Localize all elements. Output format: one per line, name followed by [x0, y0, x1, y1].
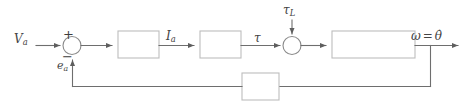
- block-mechanical-dynamics: [332, 31, 415, 58]
- label-output-equals: =: [423, 29, 433, 43]
- label-load-torque: τL: [283, 4, 295, 18]
- label-back-emf-subscript: a: [64, 64, 69, 73]
- block-diagram-canvas: Va + − ea Ia τ τL ω=θ̇: [0, 0, 468, 105]
- summing-junction-plus-sign: +: [63, 28, 74, 41]
- block-back-emf-constant: [242, 73, 279, 100]
- block-electrical-dynamics: [118, 31, 159, 58]
- label-input-voltage-symbol: V: [14, 32, 23, 46]
- label-input-voltage: Va: [14, 33, 28, 47]
- label-input-voltage-subscript: a: [23, 37, 28, 47]
- label-back-emf: ea: [57, 60, 68, 73]
- label-output-omega: ω: [411, 29, 421, 43]
- label-armature-current: Ia: [166, 30, 176, 44]
- label-load-torque-symbol: τ: [283, 3, 290, 17]
- label-output-speed: ω=θ̇: [411, 30, 442, 42]
- label-output-theta-dot: θ̇: [435, 29, 442, 43]
- label-motor-torque: τ: [254, 32, 261, 44]
- label-load-torque-subscript: L: [290, 8, 296, 18]
- block-torque-constant: [200, 31, 241, 58]
- summing-junction-torque: [283, 37, 301, 55]
- label-armature-current-subscript: a: [171, 34, 176, 44]
